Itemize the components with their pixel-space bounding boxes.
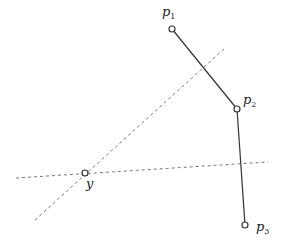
points: [82, 26, 248, 228]
segment-p1-p2: [172, 29, 237, 109]
point-p2: [234, 106, 240, 112]
point-p3: [242, 222, 248, 228]
point-p1: [169, 26, 175, 32]
dashed-line-diagonal: [35, 48, 225, 220]
labels: p1 p2 p3 y: [85, 4, 269, 236]
label-y: y: [85, 176, 94, 191]
label-p2: p2: [243, 92, 256, 109]
label-p1: p1: [162, 4, 175, 21]
diagram-canvas: p1 p2 p3 y: [0, 0, 282, 243]
dashed-line-horizontal: [16, 162, 268, 178]
label-p3: p3: [256, 219, 269, 236]
polyline: [172, 29, 245, 225]
segment-p2-p3: [237, 109, 245, 225]
dashed-lines: [16, 48, 268, 220]
